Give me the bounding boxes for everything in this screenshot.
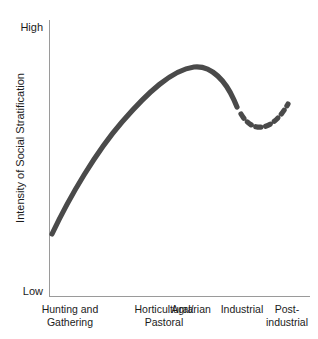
series-solid-line — [52, 67, 237, 234]
chart-plot-area — [0, 0, 318, 339]
x-tick-hunting-and-gathering: Hunting and Gathering — [22, 303, 118, 329]
x-tick-line1: Hunting and — [22, 303, 118, 316]
x-tick-post-industrial: Post- industrial — [258, 303, 316, 329]
x-axis-tick-labels: Hunting and Gathering Horticultural/ Pas… — [0, 303, 318, 339]
chart-figure: High Low Intensity of Social Stratificat… — [0, 0, 318, 339]
x-tick-line1: Post- — [258, 303, 316, 316]
series-dashed-line — [241, 104, 288, 127]
x-tick-line2: Pastoral — [116, 316, 212, 329]
x-tick-line2: industrial — [258, 316, 316, 329]
x-tick-line2: Gathering — [22, 316, 118, 329]
